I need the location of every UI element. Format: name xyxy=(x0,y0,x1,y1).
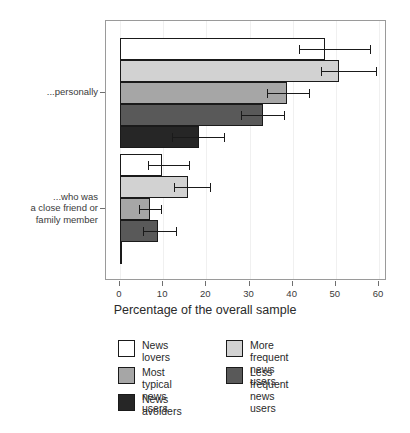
legend-label: News lovers xyxy=(142,339,170,363)
x-axis-tick-label: 50 xyxy=(320,288,350,299)
bar xyxy=(120,60,339,82)
error-bar-cap xyxy=(143,227,144,236)
bar xyxy=(120,38,325,60)
error-bar-cap xyxy=(139,205,140,214)
x-axis-tick xyxy=(292,281,293,286)
plot-area xyxy=(105,20,386,280)
bar xyxy=(120,82,287,104)
x-axis-tick-label: 40 xyxy=(277,288,307,299)
error-bar xyxy=(139,209,161,210)
legend-swatch xyxy=(118,394,135,411)
x-axis-tick-label: 0 xyxy=(104,288,134,299)
bars-layer xyxy=(106,21,385,279)
error-bar-cap xyxy=(299,45,300,54)
y-axis-tick xyxy=(100,92,105,93)
x-axis-tick-label: 60 xyxy=(363,288,393,299)
x-axis-tick xyxy=(378,281,379,286)
y-axis-label: ...personally xyxy=(0,86,98,98)
error-bar xyxy=(321,71,376,72)
error-bar-cap xyxy=(309,89,310,98)
error-bar-cap xyxy=(161,205,162,214)
legend-swatch xyxy=(226,367,243,384)
error-bar-cap xyxy=(241,111,242,120)
error-bar-cap xyxy=(189,161,190,170)
error-bar-cap xyxy=(284,111,285,120)
error-bar-cap xyxy=(376,67,377,76)
x-axis-tick xyxy=(162,281,163,286)
legend-item: Less frequent news users xyxy=(226,367,289,414)
legend-swatch xyxy=(118,340,135,357)
error-bar xyxy=(299,49,370,50)
legend-label: News avoiders xyxy=(142,393,182,417)
error-bar xyxy=(143,231,176,232)
x-axis-tick xyxy=(335,281,336,286)
y-axis-tick xyxy=(100,208,105,209)
error-bar xyxy=(241,115,284,116)
bar xyxy=(120,242,122,264)
y-axis-label: ...who was a close friend or family memb… xyxy=(0,191,98,226)
x-axis-tick xyxy=(119,281,120,286)
error-bar-cap xyxy=(210,183,211,192)
error-bar xyxy=(172,137,224,138)
x-axis-tick-label: 10 xyxy=(147,288,177,299)
error-bar-cap xyxy=(148,161,149,170)
error-bar xyxy=(174,187,210,188)
error-bar-cap xyxy=(224,133,225,142)
x-axis-tick xyxy=(205,281,206,286)
error-bar xyxy=(267,93,309,94)
legend-item: News avoiders xyxy=(118,394,182,417)
error-bar xyxy=(148,165,189,166)
x-axis-tick-label: 20 xyxy=(190,288,220,299)
error-bar-cap xyxy=(176,227,177,236)
legend-swatch xyxy=(118,367,135,384)
error-bar-cap xyxy=(370,45,371,54)
legend-swatch xyxy=(226,340,243,357)
error-bar-cap xyxy=(321,67,322,76)
legend-label: Less frequent news users xyxy=(250,366,289,414)
error-bar-cap xyxy=(172,133,173,142)
x-axis-tick-label: 30 xyxy=(234,288,264,299)
x-axis-tick xyxy=(249,281,250,286)
error-bar-cap xyxy=(174,183,175,192)
x-axis-title: Percentage of the overall sample xyxy=(0,303,410,317)
legend-item: News lovers xyxy=(118,340,170,363)
bar-chart: ...personally...who was a close friend o… xyxy=(0,0,410,433)
error-bar-cap xyxy=(267,89,268,98)
